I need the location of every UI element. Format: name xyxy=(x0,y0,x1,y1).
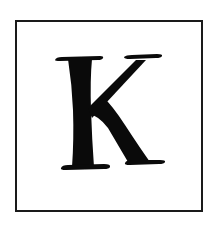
letter-k-glyph xyxy=(0,0,215,227)
